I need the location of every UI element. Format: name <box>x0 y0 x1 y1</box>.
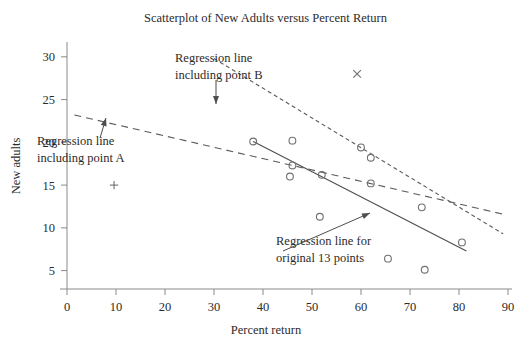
data-point-circle <box>459 239 466 246</box>
x-tick-label: 20 <box>159 300 172 314</box>
data-point-circle <box>289 137 296 144</box>
annot-b: Regression lineincluding point B <box>175 51 263 104</box>
x-tick-label: 50 <box>306 300 319 314</box>
annot-original: Regression line fororiginal 13 points <box>276 213 372 265</box>
data-point-circle <box>316 213 323 220</box>
annotation-line-1: Regression line <box>37 134 115 148</box>
x-axis-title: Percent return <box>231 323 302 337</box>
y-tick-label: 15 <box>43 179 56 193</box>
annotation-arrow-head <box>213 96 219 104</box>
annotation-line-1: Regression line <box>175 51 253 65</box>
annotation-line-2: original 13 points <box>276 251 364 265</box>
data-point-circle <box>287 173 294 180</box>
data-point-circle <box>385 255 392 262</box>
x-tick-label: 40 <box>257 300 270 314</box>
regression-lines <box>74 59 503 251</box>
data-point-cross <box>353 70 361 78</box>
annotation-arrow-head <box>361 213 370 219</box>
scatterplot-figure: Scatterplot of New Adults versus Percent… <box>0 0 531 353</box>
x-tick-label: 80 <box>453 300 466 314</box>
annotations: Regression lineincluding point BRegressi… <box>37 51 372 265</box>
y-tick-label: 10 <box>43 221 56 235</box>
annotation-line-2: including point B <box>175 68 263 82</box>
chart-title: Scatterplot of New Adults versus Percent… <box>144 11 388 25</box>
data-point-circle <box>418 204 425 211</box>
x-tick-label: 30 <box>208 300 221 314</box>
annotation-arrow-head <box>101 118 107 127</box>
annotation-line-1: Regression line for <box>276 234 372 248</box>
x-tick-label: 60 <box>355 300 368 314</box>
annot-a: Regression lineincluding point A <box>37 118 125 165</box>
x-tick-label: 0 <box>64 300 70 314</box>
data-point-circle <box>367 154 374 161</box>
data-point-plus <box>110 181 118 189</box>
annotation-line-2: including point A <box>37 151 125 165</box>
x-tick-label: 90 <box>502 300 515 314</box>
y-tick-label: 30 <box>43 50 56 64</box>
y-tick-label: 5 <box>49 264 55 278</box>
x-axis-ticks: 0102030405060708090 <box>64 289 514 314</box>
x-tick-label: 10 <box>110 300 123 314</box>
x-tick-label: 70 <box>404 300 417 314</box>
y-axis-title: New adults <box>9 138 23 195</box>
plot-canvas: Scatterplot of New Adults versus Percent… <box>0 0 531 353</box>
data-point-circle <box>421 266 428 273</box>
y-tick-label: 25 <box>43 93 56 107</box>
regression-line <box>214 59 503 234</box>
